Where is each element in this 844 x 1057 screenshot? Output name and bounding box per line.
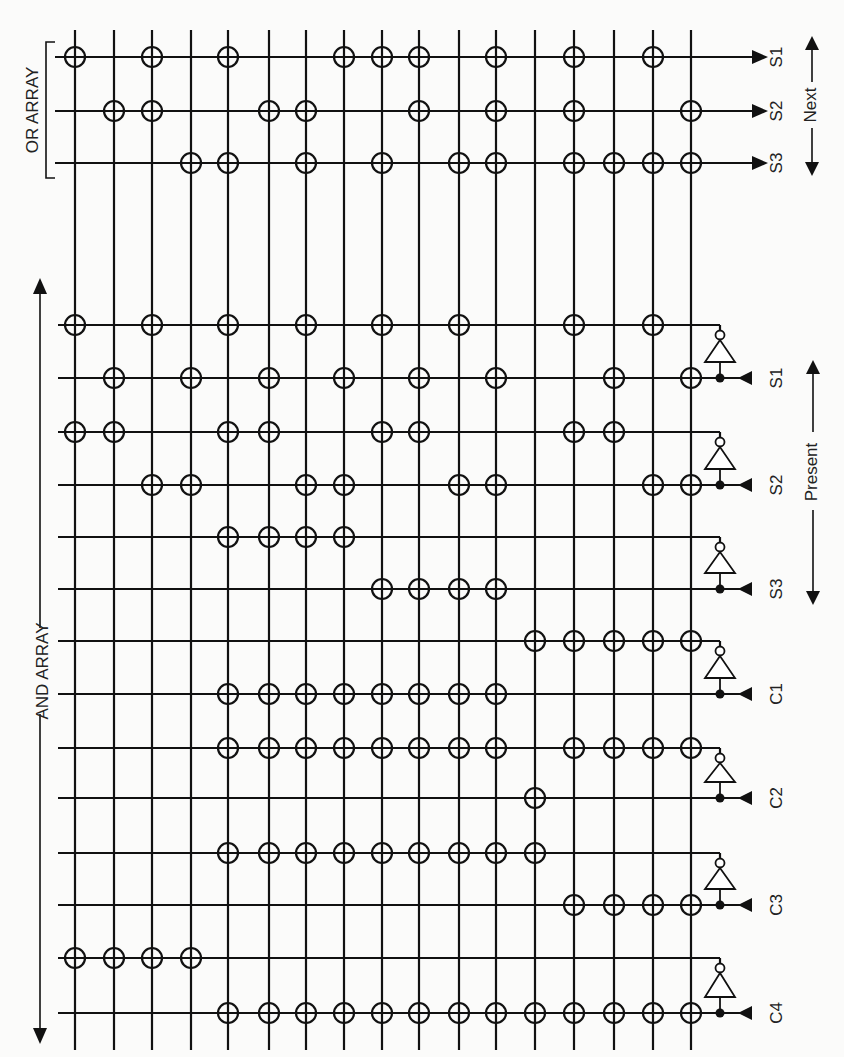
output-arrow-icon bbox=[752, 156, 768, 170]
next-state-output-label: S2 bbox=[767, 101, 786, 122]
input-arrow-icon bbox=[738, 1006, 752, 1020]
or-array bbox=[55, 47, 768, 173]
junction-dot-icon bbox=[716, 794, 725, 803]
junction-dot-icon bbox=[716, 374, 725, 383]
junction-dot-icon bbox=[716, 1009, 725, 1018]
arrow-up-icon bbox=[805, 36, 819, 50]
inverter-gate-icon bbox=[705, 754, 735, 799]
arrow-down-icon bbox=[805, 162, 819, 176]
inverter-gate-icon bbox=[705, 859, 735, 906]
input-signal-label: S2 bbox=[767, 475, 786, 496]
arrow-down-icon bbox=[806, 591, 820, 605]
input-arrow-icon bbox=[738, 582, 752, 596]
or-output-row-s3 bbox=[55, 153, 768, 173]
and-input-s2 bbox=[58, 422, 752, 495]
pla-diagram: OR ARRAY AND ARRAY Next Present S1S2S3S1… bbox=[0, 0, 844, 1057]
input-arrow-icon bbox=[738, 687, 752, 701]
inverter-gate-icon bbox=[705, 964, 735, 1014]
or-array-bracket bbox=[46, 42, 55, 178]
present-state-label: Present bbox=[802, 442, 821, 501]
output-arrow-icon bbox=[752, 50, 768, 64]
inverter-gate-icon bbox=[705, 438, 735, 486]
or-output-row-s2 bbox=[55, 101, 768, 121]
next-state-output-label: S1 bbox=[767, 47, 786, 68]
and-array-label: AND ARRAY bbox=[33, 623, 52, 720]
product-term-lines bbox=[75, 30, 691, 1050]
input-signal-label: C2 bbox=[767, 787, 786, 809]
junction-dot-icon bbox=[716, 690, 725, 699]
junction-dot-icon bbox=[716, 901, 725, 910]
and-array bbox=[58, 315, 752, 1023]
and-input-c4 bbox=[58, 948, 752, 1023]
junction-dot-icon bbox=[716, 585, 725, 594]
and-input-c1 bbox=[58, 631, 752, 704]
input-arrow-icon bbox=[738, 898, 752, 912]
and-input-s3 bbox=[58, 527, 752, 599]
and-input-c2 bbox=[58, 738, 752, 808]
inverter-gate-icon bbox=[705, 331, 735, 379]
input-signal-label: S1 bbox=[767, 368, 786, 389]
arrow-up-icon bbox=[33, 278, 47, 294]
and-input-c3 bbox=[58, 843, 752, 915]
output-arrow-icon bbox=[752, 104, 768, 118]
input-signal-label: C3 bbox=[767, 894, 786, 916]
or-array-label: OR ARRAY bbox=[23, 67, 42, 154]
inverter-gate-icon bbox=[705, 647, 735, 695]
input-signal-label: C4 bbox=[767, 1002, 786, 1024]
arrow-down-icon bbox=[33, 1028, 47, 1044]
input-signal-label: S3 bbox=[767, 579, 786, 600]
input-arrow-icon bbox=[738, 791, 752, 805]
and-input-s1 bbox=[58, 315, 752, 388]
input-arrow-icon bbox=[738, 371, 752, 385]
signal-labels: S1S2S3S1S2S3C1C2C3C4 bbox=[767, 47, 786, 1024]
arrow-up-icon bbox=[806, 360, 820, 374]
inverter-gate-icon bbox=[705, 543, 735, 590]
junction-dot-icon bbox=[716, 481, 725, 490]
next-state-output-label: S3 bbox=[767, 153, 786, 174]
next-state-label: Next bbox=[801, 87, 820, 122]
input-arrow-icon bbox=[738, 478, 752, 492]
input-signal-label: C1 bbox=[767, 683, 786, 705]
or-output-row-s1 bbox=[55, 47, 768, 67]
